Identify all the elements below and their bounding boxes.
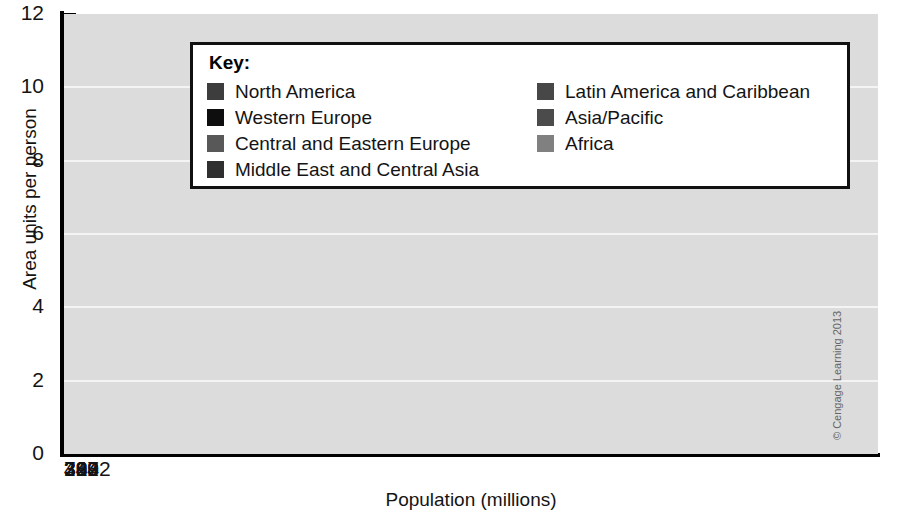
y-tick-12: 12 (10, 2, 44, 23)
y-tick-8: 8 (10, 149, 44, 170)
legend-item-middle-east-and-central-asia: Middle East and Central Asia (207, 156, 537, 182)
legend-item-label: Middle East and Central Asia (235, 160, 479, 179)
legend-swatch-icon (207, 83, 224, 100)
legend-item-north-america: North America (207, 78, 537, 104)
y-tick-0: 0 (10, 442, 44, 463)
legend-item-western-europe: Western Europe (207, 104, 537, 130)
gridline-6 (64, 233, 878, 235)
y-tick-10: 10 (10, 75, 44, 96)
legend-item-latin-america-and-caribbean: Latin America and Caribbean (537, 78, 810, 104)
legend-item-label: Western Europe (235, 108, 372, 127)
copyright-credit: © Cengage Learning 2013 (831, 320, 843, 440)
legend-swatch-icon (207, 135, 224, 152)
legend-title: Key: (209, 52, 847, 74)
legend-item-label: Africa (565, 134, 614, 153)
legend-item-label: North America (235, 82, 355, 101)
legend-item-label: Central and Eastern Europe (235, 134, 471, 153)
y-tick-4: 4 (10, 295, 44, 316)
legend-swatch-icon (537, 109, 554, 126)
y-tick-6: 6 (10, 222, 44, 243)
bar-chart: Area units per person 024681012 29938434… (0, 0, 898, 520)
y-axis-tick-labels: 024681012 (6, 0, 44, 470)
legend-item-label: Latin America and Caribbean (565, 82, 810, 101)
legend-column-left: North AmericaWestern EuropeCentral and E… (207, 78, 537, 182)
legend-swatch-icon (207, 161, 224, 178)
legend-item-central-and-eastern-europe: Central and Eastern Europe (207, 130, 537, 156)
legend-swatch-icon (537, 83, 554, 100)
legend-item-asia-pacific: Asia/Pacific (537, 104, 810, 130)
x-axis-title: Population (millions) (64, 489, 878, 511)
gridline-4 (64, 306, 878, 308)
gridline-2 (64, 380, 878, 382)
legend: Key: North AmericaWestern EuropeCentral … (190, 42, 850, 189)
legend-swatch-icon (207, 109, 224, 126)
legend-item-label: Asia/Pacific (565, 108, 663, 127)
legend-item-africa: Africa (537, 130, 810, 156)
legend-column-right: Latin America and CaribbeanAsia/PacificA… (537, 78, 810, 182)
legend-swatch-icon (537, 135, 554, 152)
y-tick-2: 2 (10, 369, 44, 390)
